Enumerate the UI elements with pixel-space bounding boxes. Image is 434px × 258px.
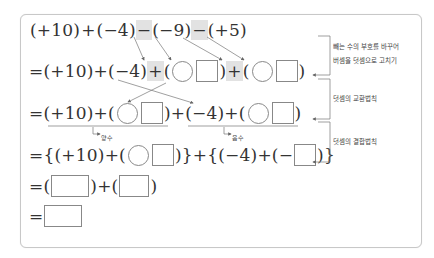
sign-blank-circle[interactable] <box>248 103 269 124</box>
term-plus-5: (+5) <box>208 20 247 40</box>
open-paren: ( <box>243 61 250 81</box>
close-paren-brace: )} <box>317 145 335 165</box>
sum-blank-box[interactable] <box>51 175 89 197</box>
expression-row-2: = (+10) + (−4) + ( ) + ( ) <box>29 59 305 83</box>
annotation-commutative-law: 덧셈의 교환법칙 <box>333 93 377 103</box>
operator-plus: + <box>257 145 271 165</box>
term-minus-4: (−4) <box>108 61 147 81</box>
annotation-change-sign-line2: 버셈을 덧셈으로 고치기 <box>333 55 397 65</box>
number-blank-box[interactable] <box>294 144 316 166</box>
close-paren-brace: )} <box>175 145 193 165</box>
operator-minus-highlighted: − <box>136 20 152 40</box>
sum-blank-box[interactable] <box>119 175 149 197</box>
close-paren: ) <box>299 61 306 81</box>
answer-blank-box[interactable] <box>44 205 82 227</box>
equals-sign: = <box>29 145 43 165</box>
expression-row-3: = (+10) + ( ) + (−4) + ( ) <box>29 101 301 125</box>
group-open-plus-10: {(+10) <box>43 145 104 165</box>
sign-blank-circle[interactable] <box>172 61 193 82</box>
term-plus-10: (+10) <box>43 61 93 81</box>
label-negative: 음수 <box>232 133 244 142</box>
operator-plus: + <box>193 145 207 165</box>
operator-plus: + <box>105 145 119 165</box>
annotation-change-sign-line1: 빼는 수의 부호를 바꾸어 <box>333 41 399 51</box>
expression-row-1: (+10) + (−4) − (−9) − (+5) <box>30 18 247 42</box>
equals-sign: = <box>29 176 43 196</box>
expression-row-4: = {(+10) + ( )} + {(−4) + (− )} <box>29 143 335 167</box>
operator-plus: + <box>94 61 108 81</box>
term-minus-4: (−4) <box>97 20 136 40</box>
group-open-minus-4: {(−4) <box>207 145 257 165</box>
open-paren: ( <box>164 61 171 81</box>
equals-sign: = <box>29 206 43 226</box>
close-paren: ) <box>295 103 302 123</box>
expression-row-6: = <box>29 204 83 228</box>
term-minus-9: (−9) <box>152 20 191 40</box>
operator-plus: + <box>224 103 238 123</box>
open-paren: ( <box>119 145 126 165</box>
operator-plus: + <box>81 20 95 40</box>
term-plus-10: (+10) <box>30 20 80 40</box>
term-minus-4: (−4) <box>185 103 224 123</box>
label-positive: 양수 <box>101 133 113 142</box>
close-paren: ) <box>90 176 97 196</box>
number-blank-box[interactable] <box>276 60 298 82</box>
open-paren: ( <box>239 103 246 123</box>
expression-row-5: = ( ) + ( ) <box>29 174 157 198</box>
close-paren: ) <box>150 176 157 196</box>
equals-sign: = <box>29 103 43 123</box>
equals-sign: = <box>29 61 43 81</box>
close-paren: ) <box>219 61 226 81</box>
annotation-associative-law: 덧셈의 결합법칙 <box>333 136 377 146</box>
number-blank-box[interactable] <box>272 102 294 124</box>
sign-blank-circle[interactable] <box>117 103 138 124</box>
term-plus-10: (+10) <box>43 103 93 123</box>
open-paren: ( <box>112 176 119 196</box>
number-blank-box[interactable] <box>141 102 163 124</box>
operator-plus: + <box>94 103 108 123</box>
operator-plus-highlighted: + <box>147 61 163 81</box>
operator-plus: + <box>171 103 185 123</box>
open-paren-minus: (− <box>272 145 293 165</box>
open-paren: ( <box>108 103 115 123</box>
number-blank-box[interactable] <box>196 60 218 82</box>
number-blank-box[interactable] <box>152 144 174 166</box>
open-paren: ( <box>43 176 50 196</box>
sign-blank-circle[interactable] <box>128 145 149 166</box>
sign-blank-circle[interactable] <box>252 61 273 82</box>
operator-plus-highlighted: + <box>226 61 242 81</box>
close-paren: ) <box>164 103 171 123</box>
operator-minus-highlighted: − <box>191 20 207 40</box>
operator-plus: + <box>97 176 111 196</box>
